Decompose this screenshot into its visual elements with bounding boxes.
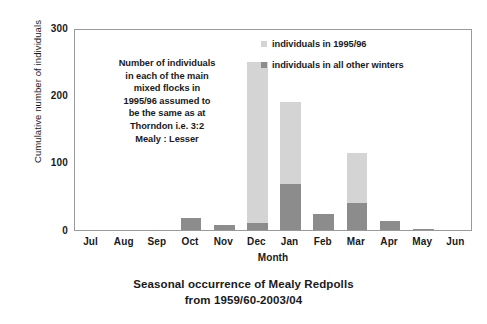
- legend-label-other-winters: individuals in all other winters: [272, 60, 404, 70]
- x-tick-label-feb: Feb: [306, 236, 339, 247]
- x-tick-label-jul: Jul: [74, 236, 107, 247]
- bar-segment-other-winters: [313, 214, 334, 230]
- y-tick-label-100: 100: [34, 157, 68, 168]
- x-tick-label-may: May: [406, 236, 439, 247]
- note-line: Mealy : Lesser: [97, 133, 237, 146]
- bar-may: [413, 229, 434, 230]
- bar-segment-other-winters: [347, 203, 368, 230]
- caption-line-1: Seasonal occurrence of Mealy Redpolls: [0, 276, 487, 292]
- bar-segment-other-winters: [380, 221, 401, 230]
- note-line: Number of individuals: [97, 57, 237, 70]
- note-line: 1995/96 assumed to: [97, 95, 237, 108]
- flock-assumption-note: Number of individualsin each of the main…: [97, 57, 237, 145]
- x-tick-label-jun: Jun: [439, 236, 472, 247]
- x-tick-label-sep: Sep: [140, 236, 173, 247]
- note-line: mixed flocks in: [97, 82, 237, 95]
- bar-apr: [380, 221, 401, 230]
- note-line: Thorndon i.e. 3:2: [97, 120, 237, 133]
- y-tick-label-0: 0: [34, 225, 68, 236]
- bar-segment-other-winters: [280, 184, 301, 230]
- x-tick-label-jan: Jan: [273, 236, 306, 247]
- bar-segment-other-winters: [247, 223, 268, 230]
- bar-oct: [181, 218, 202, 230]
- note-line: be the same as at: [97, 107, 237, 120]
- legend-item-other-winters: individuals in all other winters: [261, 60, 461, 70]
- y-tick-label-300: 300: [34, 23, 68, 34]
- bar-segment-1995-96: [347, 153, 368, 204]
- bar-dec: [247, 62, 268, 230]
- bar-segment-other-winters: [413, 229, 434, 230]
- bar-segment-other-winters: [214, 225, 235, 230]
- caption-line-2: from 1959/60-2003/04: [0, 292, 487, 308]
- chart-legend: individuals in 1995/96 individuals in al…: [261, 39, 461, 81]
- bar-mar: [347, 153, 368, 230]
- y-tick-label-200: 200: [34, 90, 68, 101]
- legend-swatch-dark: [261, 62, 267, 68]
- legend-swatch-light: [261, 41, 267, 47]
- chart-figure: Cumulative number of individuals 300 200…: [0, 0, 487, 324]
- bar-feb: [313, 214, 334, 230]
- note-line: in each of the main: [97, 70, 237, 83]
- legend-item-1995-96: individuals in 1995/96: [261, 39, 461, 49]
- bar-jan: [280, 102, 301, 230]
- figure-caption: Seasonal occurrence of Mealy Redpolls fr…: [0, 276, 487, 308]
- bar-nov: [214, 225, 235, 230]
- bar-segment-other-winters: [181, 218, 202, 230]
- x-tick-label-nov: Nov: [207, 236, 240, 247]
- bar-segment-1995-96: [280, 102, 301, 184]
- x-axis-title: Month: [74, 252, 472, 263]
- x-tick-label-apr: Apr: [373, 236, 406, 247]
- x-tick-label-oct: Oct: [174, 236, 207, 247]
- x-tick-label-dec: Dec: [240, 236, 273, 247]
- x-tick-label-mar: Mar: [339, 236, 372, 247]
- x-tick-label-aug: Aug: [107, 236, 140, 247]
- bar-segment-1995-96: [247, 62, 268, 224]
- legend-label-1995-96: individuals in 1995/96: [272, 39, 367, 49]
- x-axis-tick-labels: JulAugSepOctNovDecJanFebMarAprMayJun: [74, 236, 472, 252]
- plot-area: Number of individualsin each of the main…: [74, 29, 472, 231]
